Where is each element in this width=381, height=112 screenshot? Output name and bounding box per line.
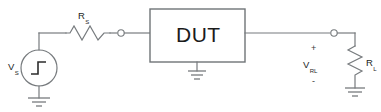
series-resistor-label-main: R <box>78 10 85 21</box>
load-resistor-label: RL <box>366 58 376 70</box>
source-label: VS <box>8 62 18 74</box>
input-node-terminal <box>118 30 124 36</box>
series-resistor-symbol <box>66 26 110 40</box>
series-resistor-label: RS <box>78 11 89 23</box>
dut-label: DUT <box>176 24 221 45</box>
source-symbol-circle <box>21 50 57 86</box>
step-waveform-icon <box>31 62 46 74</box>
load-voltage-label-main: V <box>303 59 309 70</box>
source-label-main: V <box>8 61 14 72</box>
series-resistor-label-subscript: S <box>85 19 89 25</box>
load-voltage-label-subscript: RL <box>310 68 318 74</box>
load-resistor-symbol <box>348 46 362 88</box>
load-voltage-plus-sign: + <box>311 44 316 53</box>
load-voltage-minus-sign: - <box>312 77 315 86</box>
circuit-diagram: VS RS DUT + VRL - RL <box>0 0 381 112</box>
load-voltage-label: VRL <box>303 60 317 72</box>
load-resistor-label-main: R <box>366 57 373 68</box>
source-label-subscript: S <box>15 70 19 76</box>
output-node-terminal <box>331 30 337 36</box>
load-resistor-label-subscript: L <box>373 66 376 72</box>
circuit-schematic-canvas <box>0 0 381 112</box>
